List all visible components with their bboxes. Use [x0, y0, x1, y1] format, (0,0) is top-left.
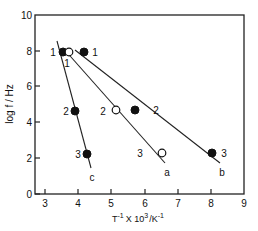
y-axis	[35, 51, 40, 194]
point-label-a2: 2	[100, 106, 106, 117]
x-tick-5: 5	[108, 198, 114, 209]
point-label-a3: 3	[137, 148, 143, 159]
line-label-c: c	[90, 172, 95, 183]
plot-frame	[35, 15, 244, 194]
x-tick-6: 6	[142, 198, 148, 209]
point-label-b1: 1	[92, 47, 98, 58]
x-tick-8: 8	[208, 198, 214, 209]
point-a3	[158, 149, 166, 157]
point-label-b2: 2	[153, 105, 159, 116]
line-label-b: b	[219, 167, 225, 178]
x-tick-9: 9	[241, 198, 247, 209]
line-label-a: a	[164, 167, 170, 178]
point-b1	[80, 48, 88, 56]
point-label-b3: 3	[221, 148, 227, 159]
point-b2	[131, 106, 139, 114]
point-label-a1: 1	[64, 58, 70, 69]
point-a1	[65, 48, 73, 56]
point-b3	[208, 149, 216, 157]
point-c3	[83, 150, 91, 158]
line-b	[75, 50, 220, 163]
line-a	[63, 48, 165, 163]
y-tick-6: 6	[26, 81, 32, 92]
svg-text:T-1X 103/K-1: T-1X 103/K-1	[112, 212, 164, 224]
y-tick-0: 0	[26, 189, 32, 200]
x-tick-7: 7	[175, 198, 181, 209]
y-tick-2: 2	[26, 153, 32, 164]
arrhenius-plot: 0 2 4 6 8 10 3 4 5 6 7 8 9 log f / Hz T-…	[0, 0, 258, 231]
y-tick-4: 4	[26, 117, 32, 128]
y-axis-label: log f / Hz	[4, 84, 15, 123]
x-tick-4: 4	[75, 198, 81, 209]
point-c2	[71, 107, 79, 115]
x-axis	[45, 189, 211, 194]
point-label-c1: 1	[50, 47, 56, 58]
x-axis-label: T-1X 103/K-1	[112, 212, 164, 224]
y-tick-10: 10	[21, 10, 33, 21]
point-label-c2: 2	[63, 106, 69, 117]
point-a2	[112, 106, 120, 114]
y-tick-8: 8	[26, 46, 32, 57]
x-tick-3: 3	[42, 198, 48, 209]
point-label-c3: 3	[75, 149, 81, 160]
